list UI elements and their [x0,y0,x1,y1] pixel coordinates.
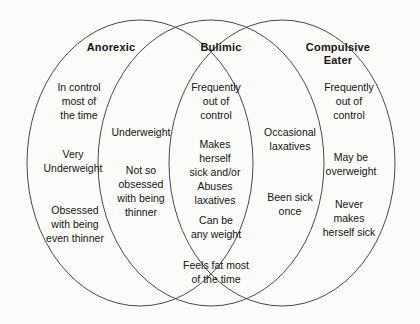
overlap-bulimic-compulsive-item-1: Occasional laxatives [248,125,332,153]
compulsive-eater-item-2: May be overweight [305,150,397,178]
bulimic-item-1: Frequently out of control [173,80,259,122]
compulsive-eater-item-3: Never makes herself sick [301,197,397,239]
compulsive-eater-item-1: Frequently out of control [306,80,392,122]
anorexic-item-1: In control most of the time [33,80,125,122]
bulimic-item-3: Can be any weight [172,213,260,241]
venn-diagram: Anorexic Bulimic Compulsive Eater In con… [0,0,420,324]
set-heading-compulsive-eater: Compulsive Eater [283,41,393,67]
set-heading-bulimic: Bulimic [166,41,276,54]
set-heading-anorexic: Anorexic [56,41,166,54]
bulimic-item-4: Feels fat most of the time [163,258,269,286]
venn-labels: Anorexic Bulimic Compulsive Eater In con… [0,0,420,324]
